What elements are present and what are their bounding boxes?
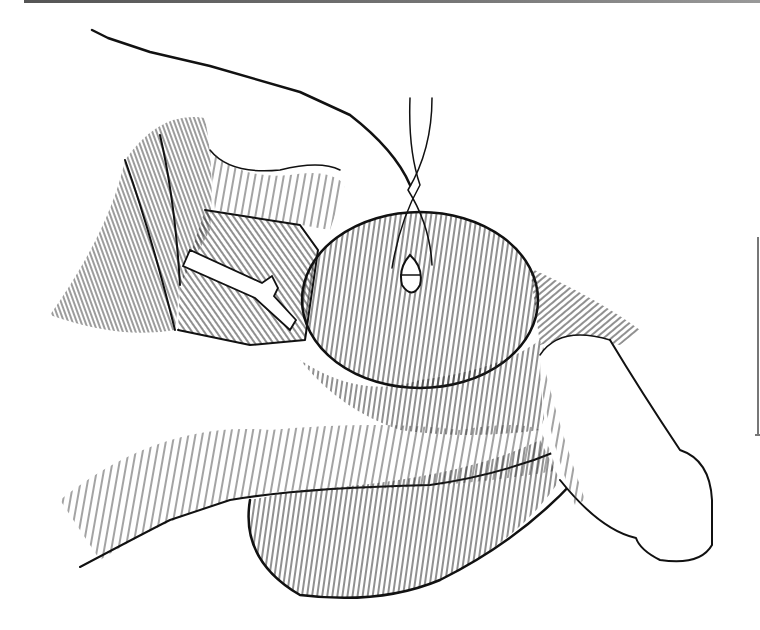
right-tissue-band — [530, 268, 640, 345]
exposed-vessel-channel — [178, 210, 318, 345]
anatomical-illustration — [0, 0, 760, 630]
penile-shaft — [540, 335, 712, 561]
